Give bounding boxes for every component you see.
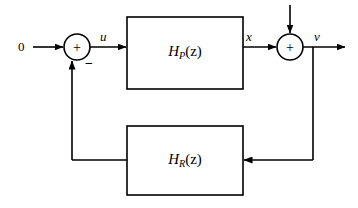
feedback-block-transfer-function: H: [168, 151, 179, 167]
plant-block-label: HP(z): [127, 44, 243, 61]
label-reference-input: 0: [18, 40, 25, 53]
feedback-block-label: HR(z): [127, 152, 243, 169]
left-summer-plus-sign: +: [73, 41, 81, 55]
label-signal-v: v: [314, 30, 320, 43]
feedback-block-argument: (z): [185, 151, 202, 167]
diagram-canvas: [0, 0, 358, 208]
block-diagram: 0 u x v + − + HP(z) HR(z): [0, 0, 358, 208]
left-summer-minus-sign: −: [85, 57, 93, 71]
label-signal-u: u: [100, 30, 107, 43]
plant-block-transfer-function: H: [168, 43, 179, 59]
label-signal-x: x: [246, 30, 252, 43]
plant-block-argument: (z): [185, 43, 202, 59]
right-summer-plus-sign: +: [286, 41, 294, 55]
